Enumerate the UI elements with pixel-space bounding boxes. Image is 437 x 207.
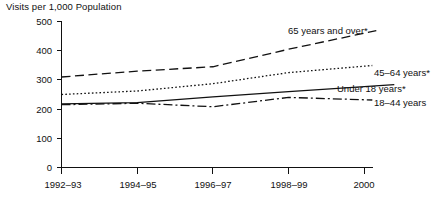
x-tick-label: 1998–99 [271, 179, 308, 190]
y-tick-label: 300 [36, 74, 52, 85]
y-tick-label: 0 [47, 162, 52, 173]
y-tick-label-group: 500 400 300 200 100 0 [36, 16, 52, 173]
y-tick-label: 400 [36, 45, 52, 56]
y-tick-label: 500 [36, 16, 52, 27]
series-label-18-44: 18–44 years [374, 97, 427, 108]
series-label-group: 65 years and over* 45–64 years* Under 18… [288, 25, 430, 108]
x-tick-label: 1996–97 [195, 179, 232, 190]
y-tick-label: 200 [36, 104, 52, 115]
series-label-65-and-over: 65 years and over* [288, 25, 368, 36]
series-line-1 [62, 66, 373, 95]
series-line-3 [62, 97, 373, 106]
line-chart-plot: 500 400 300 200 100 0 1992–93 1994–95 19… [0, 0, 437, 207]
series-label-under-18: Under 18 years* [337, 83, 406, 94]
y-tick-marks [57, 22, 62, 168]
x-tick-marks [62, 168, 365, 174]
y-tick-label: 100 [36, 133, 52, 144]
x-tick-label: 1994–95 [120, 179, 157, 190]
series-line-0 [62, 31, 377, 77]
series-label-45-64: 45–64 years* [374, 67, 430, 78]
x-tick-label: 1992–93 [45, 179, 82, 190]
chart-container: Visits per 1,000 Population 500 400 300 … [0, 0, 437, 207]
x-tick-label: 2000 [353, 179, 374, 190]
series-layer [62, 31, 395, 107]
x-tick-label-group: 1992–93 1994–95 1996–97 1998–99 2000 [45, 179, 375, 190]
